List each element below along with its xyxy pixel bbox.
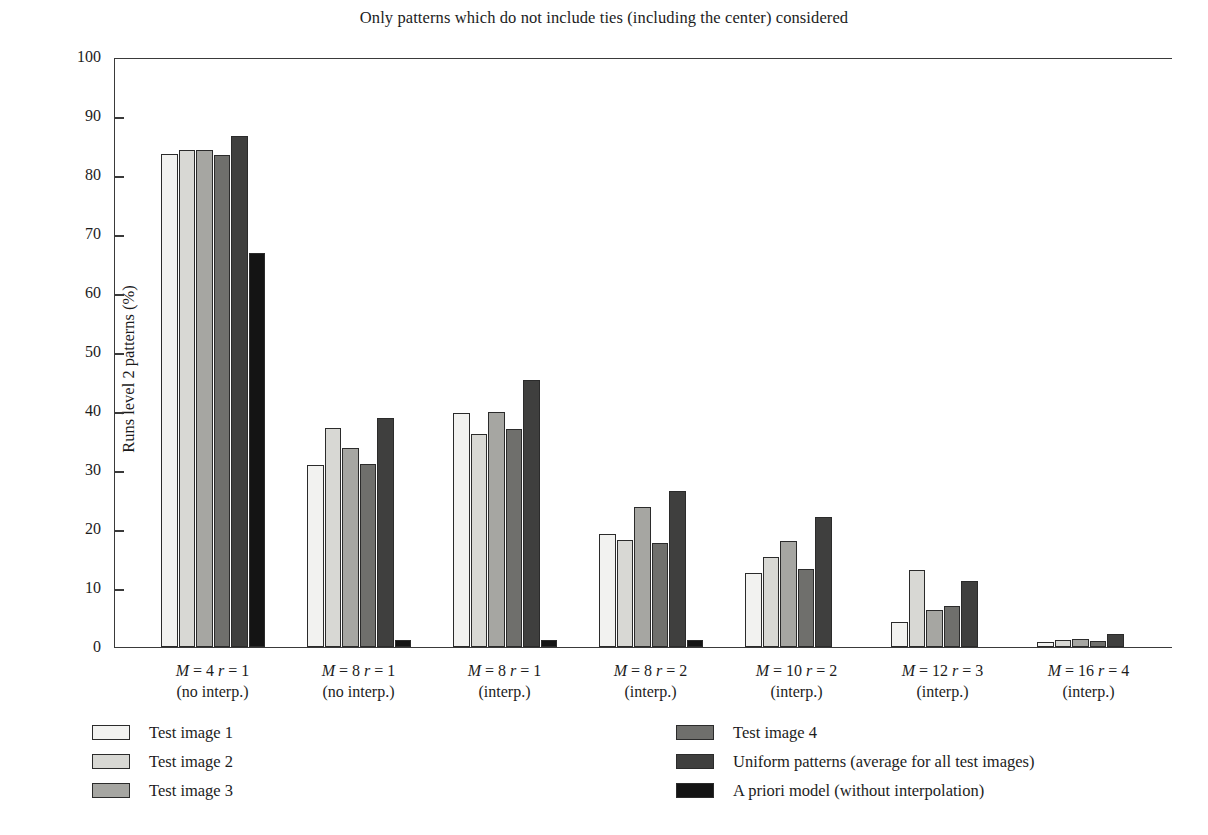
bar <box>214 155 231 647</box>
y-axis-tick-mark <box>115 530 124 531</box>
y-axis-tick-label: 80 <box>41 166 101 184</box>
y-axis-tick-label: 70 <box>41 225 101 243</box>
bar <box>249 253 266 647</box>
bar <box>196 150 213 647</box>
bar <box>360 464 377 647</box>
chart-title: Only patterns which do not include ties … <box>0 8 1208 28</box>
y-axis-tick-label: 40 <box>41 402 101 420</box>
legend-label: Uniform patterns (average for all test i… <box>733 752 1034 772</box>
legend-item: Test image 2 <box>92 747 233 776</box>
bar <box>471 434 488 647</box>
x-axis-group-label: M = 16 r = 4(interp.) <box>979 660 1199 702</box>
bar <box>506 429 523 647</box>
legend-swatch <box>92 783 130 798</box>
legend-column-left: Test image 1Test image 2Test image 3 <box>92 718 233 805</box>
bar-group <box>599 57 704 647</box>
legend-swatch <box>676 783 714 798</box>
bar <box>523 380 540 647</box>
bar <box>453 413 470 647</box>
bar-group <box>891 57 996 647</box>
legend-label: Test image 2 <box>149 752 233 772</box>
bar <box>488 412 505 647</box>
bar <box>1037 642 1054 647</box>
y-axis-tick-mark <box>115 235 124 236</box>
x-axis-group-label-line2: (interp.) <box>979 681 1199 702</box>
bar <box>325 428 342 647</box>
legend-swatch <box>676 725 714 740</box>
bar <box>307 465 324 647</box>
bar <box>231 136 248 647</box>
bar <box>541 640 558 647</box>
bar <box>763 557 780 647</box>
legend-item: A priori model (without interpolation) <box>676 776 1034 805</box>
legend-swatch <box>676 754 714 769</box>
bar <box>617 540 634 647</box>
legend-swatch <box>92 754 130 769</box>
bar <box>687 640 704 647</box>
bar <box>669 491 686 647</box>
legend-label: A priori model (without interpolation) <box>733 781 984 801</box>
bar <box>909 570 926 647</box>
y-axis-tick-label: 100 <box>41 48 101 66</box>
y-axis-tick-label: 10 <box>41 579 101 597</box>
bar <box>815 517 832 647</box>
legend-item: Uniform patterns (average for all test i… <box>676 747 1034 776</box>
bar <box>634 507 651 647</box>
y-axis-tick-label: 30 <box>41 461 101 479</box>
bar <box>798 569 815 647</box>
legend-swatch <box>92 725 130 740</box>
legend-item: Test image 1 <box>92 718 233 747</box>
bar <box>891 622 908 647</box>
bar <box>780 541 797 647</box>
y-axis-tick-label: 60 <box>41 284 101 302</box>
y-axis-tick-mark <box>115 471 124 472</box>
plot-area: Runs level 2 patterns (%) 10090807060504… <box>114 58 1172 648</box>
y-axis-tick-mark <box>115 294 124 295</box>
chart-legend: Test image 1Test image 2Test image 3 Tes… <box>0 718 1208 828</box>
y-axis-tick-mark <box>115 353 124 354</box>
y-axis-tick-label: 90 <box>41 107 101 125</box>
bar <box>161 154 178 647</box>
bar <box>1107 634 1124 647</box>
bar <box>377 418 394 648</box>
bar-chart-figure: Only patterns which do not include ties … <box>0 0 1208 835</box>
bar <box>745 573 762 647</box>
bar-group <box>161 57 266 647</box>
bar <box>342 448 359 647</box>
bar <box>1072 639 1089 647</box>
y-axis-title: Runs level 2 patterns (%) <box>119 69 139 669</box>
bar <box>179 150 196 647</box>
y-axis-tick-mark <box>115 117 124 118</box>
bar <box>652 543 669 647</box>
bar-group <box>745 57 850 647</box>
legend-item: Test image 3 <box>92 776 233 805</box>
legend-label: Test image 4 <box>733 723 817 743</box>
y-axis-tick-mark <box>115 589 124 590</box>
bar <box>926 610 943 647</box>
y-axis-tick-mark <box>115 412 124 413</box>
bar <box>1055 640 1072 647</box>
bar <box>395 640 412 647</box>
x-axis-group-label-line1: M = 16 r = 4 <box>979 660 1199 681</box>
y-axis-tick-label: 0 <box>41 638 101 656</box>
bar-group <box>1037 57 1142 647</box>
bar-group <box>307 57 412 647</box>
bar <box>944 606 961 647</box>
y-axis-tick-label: 50 <box>41 343 101 361</box>
bar <box>599 534 616 647</box>
legend-label: Test image 1 <box>149 723 233 743</box>
y-axis-tick-label: 20 <box>41 520 101 538</box>
bar <box>961 581 978 647</box>
legend-item: Test image 4 <box>676 718 1034 747</box>
bar-group <box>453 57 558 647</box>
y-axis-tick-mark <box>115 176 124 177</box>
bar <box>1090 641 1107 647</box>
legend-column-right: Test image 4Uniform patterns (average fo… <box>676 718 1034 805</box>
legend-label: Test image 3 <box>149 781 233 801</box>
